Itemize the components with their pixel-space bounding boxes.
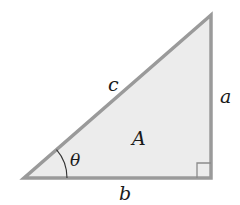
label-area: A (130, 127, 146, 149)
label-angle: θ (70, 150, 80, 170)
triangle-shape (24, 15, 211, 178)
right-triangle-diagram: c a b A θ (0, 0, 240, 205)
label-hypotenuse: c (108, 73, 119, 95)
label-opposite: a (220, 85, 231, 107)
label-adjacent: b (119, 182, 131, 204)
